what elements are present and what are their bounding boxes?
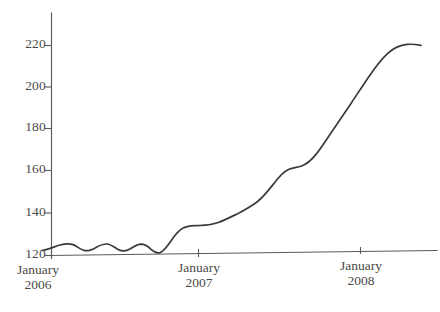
x-tick-label-2006-year: 2006 bbox=[0, 278, 98, 293]
y-tick-label-120: 120 bbox=[25, 246, 46, 262]
x-tick-label-2007-year: 2007 bbox=[139, 276, 259, 291]
y-tick-label-160: 160 bbox=[25, 161, 46, 177]
x-tick-label-2006-month: January bbox=[0, 263, 98, 278]
y-tick-label-180: 180 bbox=[25, 119, 46, 135]
x-tick-label-2007-month: January bbox=[139, 261, 259, 276]
x-tick-label-2008-year: 2008 bbox=[301, 274, 421, 289]
y-tick-label-140: 140 bbox=[25, 204, 46, 220]
y-tick-label-200: 200 bbox=[25, 78, 46, 94]
x-tick-label-2008-month: January bbox=[301, 259, 421, 274]
y-tick-label-220: 220 bbox=[25, 36, 46, 52]
x-axis-line bbox=[49, 251, 437, 256]
x-tick-label-2007: January 2007 bbox=[139, 261, 259, 290]
line-chart: 220 200 180 160 140 120 January 2006 Jan… bbox=[0, 0, 440, 312]
data-series-line bbox=[42, 44, 421, 253]
x-tick-label-2008: January 2008 bbox=[301, 259, 421, 288]
x-tick-label-2006: January 2006 bbox=[0, 263, 98, 292]
